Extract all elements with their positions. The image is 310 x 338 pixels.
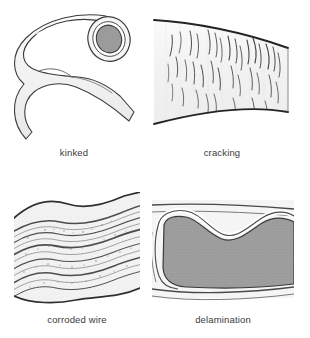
cracked-surface-illustration — [152, 8, 292, 140]
corroded-wire-illustration — [14, 192, 140, 308]
panel-kinked — [8, 8, 140, 140]
failure-modes-figure: kinked — [0, 0, 310, 338]
kinked-tube-illustration — [8, 8, 140, 140]
tube-wall-surface — [154, 20, 288, 124]
caption-delamination: delamination — [152, 314, 294, 325]
delamination-illustration — [152, 192, 294, 308]
caption-corroded-wire: corroded wire — [14, 314, 140, 325]
caption-kinked: kinked — [8, 147, 140, 158]
panel-delamination — [152, 192, 294, 308]
panel-corroded-wire — [14, 192, 140, 308]
panel-cracking — [152, 8, 292, 140]
caption-cracking: cracking — [152, 147, 292, 158]
